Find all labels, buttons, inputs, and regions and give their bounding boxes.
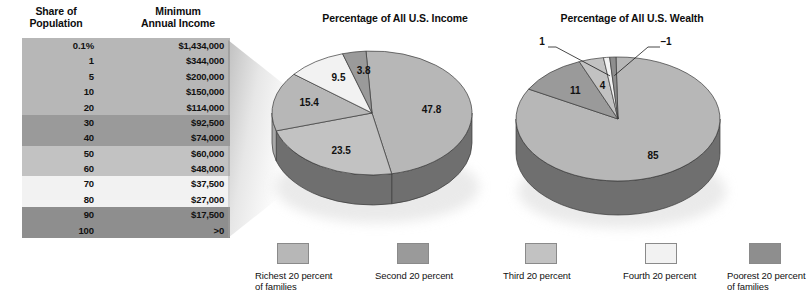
wealth-pie-top bbox=[516, 57, 720, 181]
legend-color-swatch bbox=[749, 243, 781, 264]
cell-share-of-population: 30 bbox=[22, 115, 94, 132]
cell-minimum-annual-income: $114,000 bbox=[104, 100, 224, 117]
share-header-line1: Share of bbox=[35, 5, 76, 17]
legend-label-line1: Second 20 percent bbox=[375, 270, 495, 281]
income-pie-chart: 47.823.515.49.53.8 bbox=[255, 35, 485, 240]
legend-color-swatch bbox=[525, 243, 557, 264]
table-row: 0.1%$1,434,000 bbox=[22, 38, 230, 55]
pie-slice-label: 47.8 bbox=[422, 104, 442, 115]
legend-label-line1: Third 20 percent bbox=[503, 270, 623, 281]
pie-slice-label: 11 bbox=[570, 85, 581, 96]
legend-color-swatch bbox=[397, 243, 429, 264]
income-header-line2: Annual Income bbox=[141, 17, 215, 29]
wealth-chart-title: Percentage of All U.S. Wealth bbox=[522, 12, 742, 24]
legend-item[interactable]: Poorest 20 percentof families bbox=[727, 243, 811, 292]
table-row: 60$48,000 bbox=[22, 161, 230, 178]
income-header-line1: Minimum bbox=[155, 5, 200, 17]
table-row: 100>0 bbox=[22, 223, 230, 240]
cell-minimum-annual-income: $17,500 bbox=[104, 207, 224, 224]
legend-label: Richest 20 percentof families bbox=[255, 270, 375, 292]
legend-color-swatch bbox=[277, 243, 309, 264]
legend-item[interactable]: Second 20 percent bbox=[375, 243, 495, 281]
column-header-share-of-population: Share of Population bbox=[18, 6, 94, 29]
pie-slice-label: 4 bbox=[600, 80, 606, 91]
cell-minimum-annual-income: $37,500 bbox=[104, 176, 224, 193]
cell-minimum-annual-income: $150,000 bbox=[104, 84, 224, 101]
cell-minimum-annual-income: $92,500 bbox=[104, 115, 224, 132]
table-row: 5$200,000 bbox=[22, 69, 230, 86]
legend-item[interactable]: Richest 20 percentof families bbox=[255, 243, 375, 292]
cell-share-of-population: 70 bbox=[22, 176, 94, 193]
table-row: 40$74,000 bbox=[22, 130, 230, 147]
legend-label-line1: Richest 20 percent bbox=[255, 270, 375, 281]
cell-share-of-population: 5 bbox=[22, 69, 94, 86]
cell-share-of-population: 50 bbox=[22, 146, 94, 163]
legend-label: Poorest 20 percentof families bbox=[727, 270, 811, 292]
income-chart-title: Percentage of All U.S. Income bbox=[285, 12, 505, 24]
cell-minimum-annual-income: $74,000 bbox=[104, 130, 224, 147]
cell-share-of-population: 1 bbox=[22, 53, 94, 70]
table-row: 30$92,500 bbox=[22, 115, 230, 132]
cell-share-of-population: 60 bbox=[22, 161, 94, 178]
pie-slice-label: 23.5 bbox=[331, 145, 351, 156]
cell-minimum-annual-income: $200,000 bbox=[104, 69, 224, 86]
income-distribution-table: Share of Population Minimum Annual Incom… bbox=[0, 0, 240, 245]
legend-label-line1: Poorest 20 percent bbox=[727, 270, 811, 281]
cell-minimum-annual-income: $1,434,000 bbox=[104, 38, 224, 55]
chart-legend: Richest 20 percentof familiesSecond 20 p… bbox=[255, 243, 745, 305]
table-row: 1$344,000 bbox=[22, 53, 230, 70]
income-pie-top bbox=[272, 51, 472, 175]
cell-share-of-population: 90 bbox=[22, 207, 94, 224]
cell-share-of-population: 80 bbox=[22, 192, 94, 209]
cell-minimum-annual-income: $48,000 bbox=[104, 161, 224, 178]
cell-share-of-population: 40 bbox=[22, 130, 94, 147]
wealth-pie-chart: 851141–1 bbox=[498, 35, 738, 240]
table-row: 50$60,000 bbox=[22, 146, 230, 163]
wealth-pie-svg: 851141–1 bbox=[498, 35, 738, 240]
legend-item[interactable]: Third 20 percent bbox=[503, 243, 623, 281]
cell-share-of-population: 0.1% bbox=[22, 38, 94, 55]
cell-share-of-population: 100 bbox=[22, 223, 94, 240]
pie-slice-label: 9.5 bbox=[332, 72, 346, 83]
legend-label: Third 20 percent bbox=[503, 270, 623, 281]
pie-slice-label: 15.4 bbox=[299, 97, 319, 108]
legend-label-line2: of families bbox=[727, 281, 811, 292]
cell-minimum-annual-income: $27,000 bbox=[104, 192, 224, 209]
table-row: 90$17,500 bbox=[22, 207, 230, 224]
pie-slice-callout-label: –1 bbox=[660, 36, 672, 47]
pie-slice-callout-label: 1 bbox=[539, 36, 545, 47]
table-row: 70$37,500 bbox=[22, 176, 230, 193]
cell-minimum-annual-income: >0 bbox=[104, 223, 224, 240]
legend-item[interactable]: Fourth 20 percent bbox=[623, 243, 743, 281]
legend-color-swatch bbox=[645, 243, 677, 264]
legend-label-line1: Fourth 20 percent bbox=[623, 270, 743, 281]
table-row: 10$150,000 bbox=[22, 84, 230, 101]
legend-label: Fourth 20 percent bbox=[623, 270, 743, 281]
cell-minimum-annual-income: $344,000 bbox=[104, 53, 224, 70]
cell-share-of-population: 20 bbox=[22, 100, 94, 117]
cell-share-of-population: 10 bbox=[22, 84, 94, 101]
pie-slice-label: 3.8 bbox=[357, 65, 371, 76]
legend-label-line2: of families bbox=[255, 281, 375, 292]
table-header-row: Share of Population Minimum Annual Incom… bbox=[0, 2, 238, 36]
income-pie-svg: 47.823.515.49.53.8 bbox=[255, 35, 485, 240]
cell-minimum-annual-income: $60,000 bbox=[104, 146, 224, 163]
pie-slice-label: 85 bbox=[647, 150, 659, 161]
table-body: 0.1%$1,434,0001$344,0005$200,00010$150,0… bbox=[22, 38, 230, 238]
share-header-line2: Population bbox=[29, 17, 82, 29]
legend-label: Second 20 percent bbox=[375, 270, 495, 281]
column-header-minimum-annual-income: Minimum Annual Income bbox=[128, 6, 228, 29]
table-row: 80$27,000 bbox=[22, 192, 230, 209]
table-row: 20$114,000 bbox=[22, 100, 230, 117]
